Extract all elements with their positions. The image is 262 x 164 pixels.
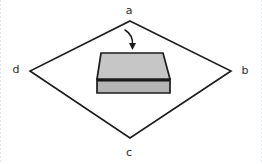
vertex-label-b: b <box>242 64 249 77</box>
geometry-figure: a b c d <box>0 0 262 164</box>
curved-arrow-shaft-icon <box>125 30 133 45</box>
slab-top-face <box>97 53 170 79</box>
vertex-label-d: d <box>13 63 20 76</box>
vertex-label-a: a <box>126 4 133 17</box>
vertex-label-c: c <box>126 146 132 159</box>
figure-canvas: a b c d <box>0 0 262 164</box>
curved-arrow-head-icon <box>129 43 136 50</box>
